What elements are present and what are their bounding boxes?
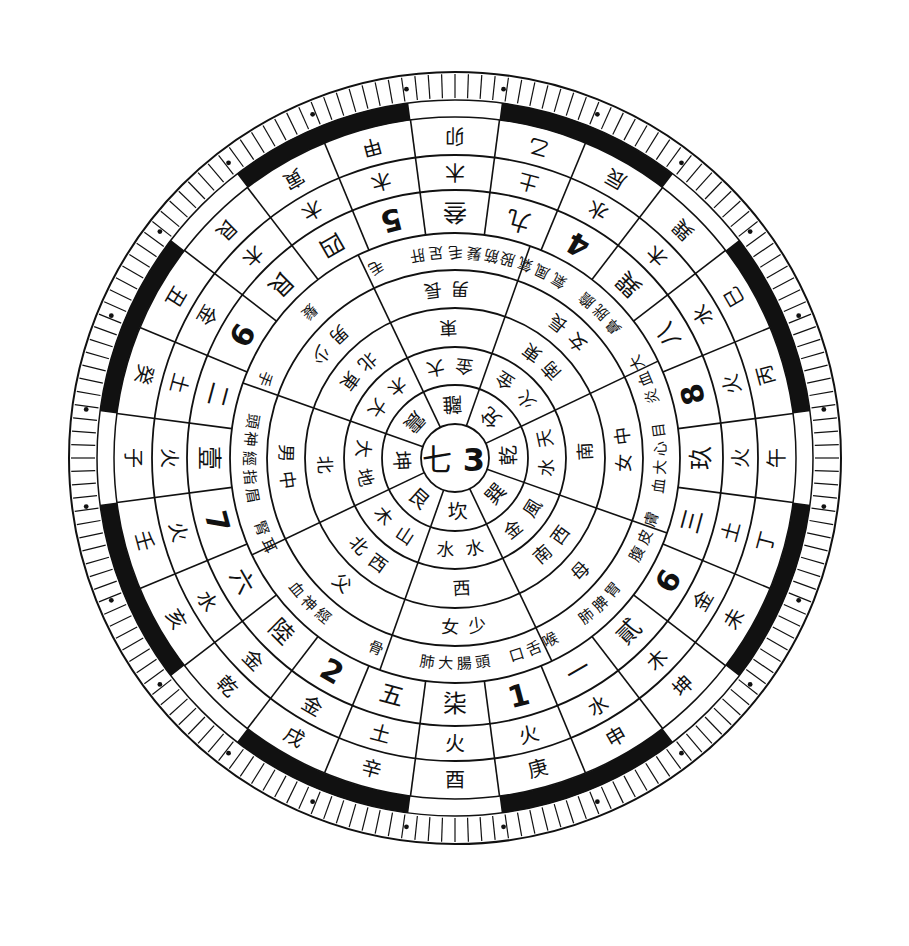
numeral-label: 5 [377, 201, 406, 240]
degree-tick [219, 742, 234, 761]
degree-tick [110, 290, 132, 301]
degree-tick [739, 222, 758, 237]
mountain-label: 癸 [130, 362, 158, 388]
body-part-label: 經 [240, 451, 258, 466]
family-label: 父 [328, 570, 355, 598]
trigram-label: 震 [399, 406, 430, 437]
inner-element-label: 金 [492, 367, 519, 394]
mountain-label: 戌 [279, 721, 308, 752]
body-part-label: 目 [649, 421, 669, 438]
degree-tick [428, 75, 430, 99]
mountain-label: 巽 [667, 215, 698, 246]
degree-tick [613, 782, 624, 804]
mountain-label: 辰 [601, 164, 630, 195]
family-label: 中 [611, 426, 634, 447]
inner-element-label: 大 [352, 438, 375, 458]
inner-element-label: 風 [518, 495, 545, 522]
compass-labels: 卯乙辰巽巳丙午丁未坤申庚酉辛戌乾亥壬子癸丑艮寅甲木土水木水火火土金木水火火土金金… [121, 124, 789, 792]
element-label: 火 [445, 732, 465, 756]
inner-element-label: 金 [455, 355, 475, 378]
body-part-label: 心 [651, 441, 670, 457]
trigram-label: 乾 [496, 445, 521, 466]
tick-dot [226, 751, 231, 756]
degree-tick [542, 807, 548, 830]
family-label: 中 [276, 470, 299, 491]
tick-dot [404, 824, 409, 829]
degree-tick [208, 734, 223, 752]
mountain-label: 巳 [718, 282, 749, 311]
degree-tick [797, 339, 820, 346]
tick-dot [84, 504, 89, 509]
tick-dot [157, 682, 162, 687]
degree-tick [442, 818, 443, 842]
sector-divider-24 [484, 681, 499, 796]
degree-tick [71, 445, 95, 446]
body-part-label: 風 [532, 260, 553, 283]
body-part-label: 皮 [634, 526, 656, 547]
degree-tick [161, 689, 179, 704]
numeral-label: 7 [198, 507, 237, 536]
body-part-label: 大 [438, 654, 454, 673]
element-label: 木 [445, 160, 465, 184]
degree-tick [578, 796, 586, 819]
degree-tick [667, 147, 681, 166]
degree-tick [229, 147, 243, 166]
inner-element-label: 木 [370, 502, 398, 529]
degree-tick [635, 770, 647, 791]
degree-tick [731, 689, 749, 704]
mountain-label: 卯 [445, 124, 465, 148]
degree-tick [442, 74, 443, 98]
degree-tick [810, 521, 834, 525]
numeral-label: 8 [673, 380, 712, 409]
numeral-label: 艮 [263, 266, 300, 303]
degree-tick [723, 201, 741, 217]
mountain-label: 壬 [130, 529, 158, 555]
degree-tick [635, 125, 647, 146]
inner-element-label: 水 [435, 538, 455, 561]
inner-element-label: 大 [364, 395, 391, 422]
ring-boundary [344, 347, 566, 569]
tick-dot [226, 160, 231, 165]
ring-boundary [305, 308, 605, 608]
numeral-label: 三 [676, 506, 709, 536]
degree-tick [116, 278, 137, 289]
degree-tick [170, 699, 188, 715]
degree-tick [170, 201, 188, 217]
body-part-label: 腸 [456, 654, 472, 673]
sector-divider-24 [117, 413, 232, 428]
inner-element-label: 水 [463, 536, 485, 560]
degree-tick [731, 211, 749, 226]
mountain-label: 庚 [526, 755, 552, 783]
degree-tick [90, 339, 113, 346]
body-part-label: 筋 [483, 245, 501, 265]
degree-tick [86, 557, 109, 564]
tick-dot [748, 229, 753, 234]
degree-tick [219, 155, 234, 174]
body-part-label: 血 [649, 477, 669, 494]
body-part-label: 腎 [250, 518, 272, 538]
degree-tick [686, 734, 701, 752]
degree-tick [767, 638, 788, 650]
mountain-label: 丙 [752, 362, 780, 388]
tick-dot [595, 112, 600, 117]
numeral-label: 6 [648, 563, 689, 599]
mountain-label: 坤 [667, 670, 698, 701]
direction-label: 東 [518, 339, 545, 367]
degree-tick [144, 232, 163, 246]
family-label: 長 [423, 279, 444, 302]
tick-dot [157, 229, 162, 234]
sector-divider-24 [410, 681, 425, 796]
degree-tick [375, 810, 380, 833]
sector-divider-24 [117, 487, 232, 502]
degree-tick [810, 391, 834, 395]
degree-tick [240, 140, 253, 160]
degree-tick [773, 627, 794, 638]
body-part-label: 舌 [523, 637, 544, 659]
trigram-label: 離 [442, 392, 463, 417]
family-label: 男 [275, 444, 296, 463]
family-label: 女 [564, 328, 592, 356]
degree-tick [336, 800, 343, 823]
mountain-label: 申 [601, 721, 630, 752]
degree-tick [336, 93, 343, 116]
degree-tick [686, 164, 701, 182]
